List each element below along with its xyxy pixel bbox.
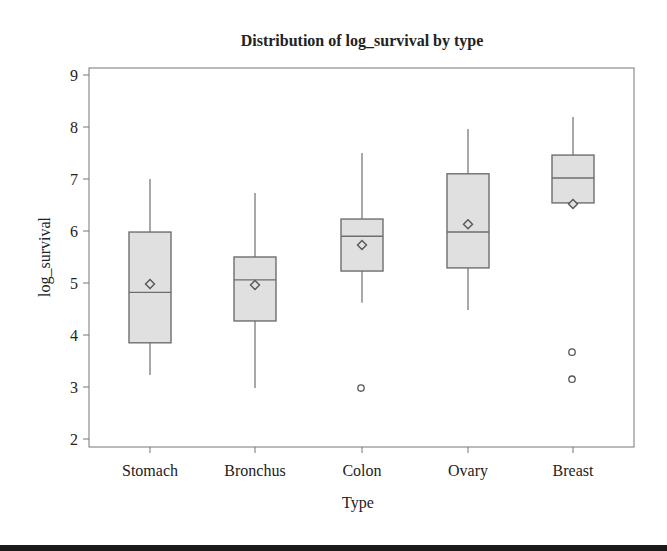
chart-title: Distribution of log_survival by type	[241, 32, 484, 50]
y-tick-label: 2	[70, 431, 78, 448]
box-series	[129, 117, 594, 391]
box-stomach	[129, 179, 171, 375]
outlier-marker	[569, 376, 575, 382]
y-tick-label: 5	[70, 275, 78, 292]
x-axis-label: Type	[342, 494, 374, 512]
y-tick-label: 7	[70, 171, 78, 188]
y-tick-label: 3	[70, 379, 78, 396]
x-tick-label: Breast	[553, 462, 594, 479]
outlier-marker	[358, 385, 364, 391]
box-ovary	[447, 129, 489, 310]
x-tick-label: Stomach	[122, 462, 178, 479]
y-tick-label: 8	[70, 119, 78, 136]
x-tick-label: Colon	[342, 462, 381, 479]
x-axis: StomachBronchusColonOvaryBreast	[122, 447, 594, 480]
box-colon	[341, 153, 383, 391]
bottom-border	[0, 545, 667, 551]
y-axis: 23456789	[70, 67, 89, 448]
box-plot-chart: Distribution of log_survival by type 234…	[0, 0, 667, 551]
box-bronchus	[234, 193, 276, 388]
x-tick-label: Ovary	[448, 462, 488, 480]
x-tick-label: Bronchus	[224, 462, 285, 479]
outlier-marker	[569, 349, 575, 355]
iqr-box	[552, 155, 594, 203]
y-axis-label: log_survival	[36, 216, 54, 297]
y-tick-label: 4	[70, 327, 78, 344]
y-tick-label: 9	[70, 67, 78, 84]
box-breast	[552, 117, 594, 382]
y-tick-label: 6	[70, 223, 78, 240]
